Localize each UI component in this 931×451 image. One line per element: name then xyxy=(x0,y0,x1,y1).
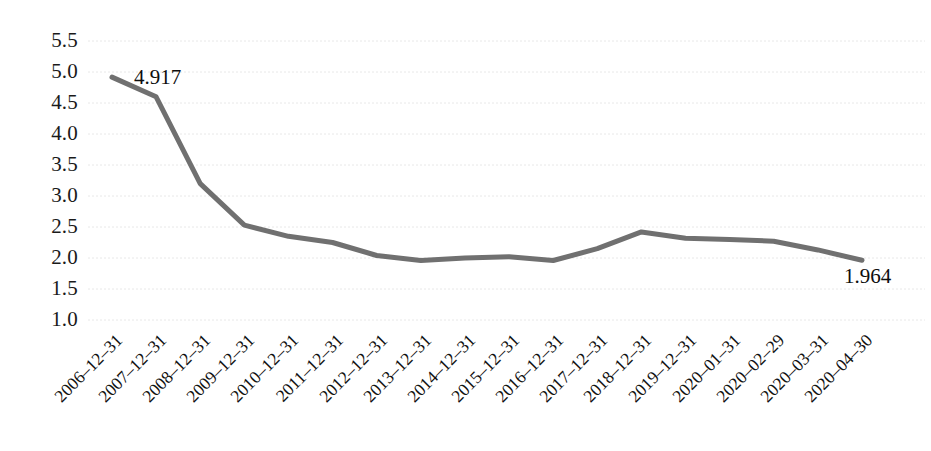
data-point-value-label: 1.964 xyxy=(844,264,891,289)
y-axis-tick-label: 3.5 xyxy=(18,154,78,175)
series-line xyxy=(112,77,862,260)
series-group xyxy=(112,77,862,260)
y-axis-tick-label: 4.5 xyxy=(18,92,78,113)
chart-container: 5.55.04.54.03.53.02.52.01.51.0 2006–12–3… xyxy=(0,0,931,451)
y-axis-tick-label: 5.0 xyxy=(18,61,78,82)
y-axis-tick-label: 5.5 xyxy=(18,30,78,51)
y-axis-tick-label: 4.0 xyxy=(18,123,78,144)
data-point-value-label: 4.917 xyxy=(134,65,181,90)
y-axis-tick-label: 1.5 xyxy=(18,278,78,299)
y-axis-tick-label: 2.5 xyxy=(18,216,78,237)
y-axis-tick-label: 2.0 xyxy=(18,247,78,268)
y-axis-tick-label: 1.0 xyxy=(18,309,78,330)
gridlines-group xyxy=(88,41,925,320)
y-axis-tick-label: 3.0 xyxy=(18,185,78,206)
